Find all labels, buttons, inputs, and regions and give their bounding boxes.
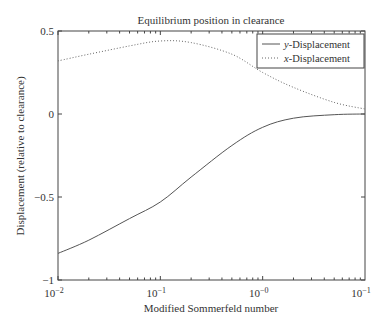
x-axis-label: Modified Sommerfeld number [144, 302, 279, 314]
y-tick-label: 0.5 [40, 25, 54, 37]
x-tick-label: 10−1 [351, 286, 371, 299]
legend-label-x-displacement: x-Displacement [283, 53, 350, 64]
x-tick-label: 10−1 [147, 286, 167, 299]
y-tick-label: 0 [49, 108, 55, 120]
y-displacement-line [58, 114, 365, 253]
y-tick-label: −0.5 [34, 191, 54, 203]
y-axis-label: Displacement (relative to clearance) [14, 76, 27, 235]
x-tick-label: 10−0 [249, 286, 269, 299]
x-tick-label: 10−2 [44, 286, 64, 299]
legend-label-y-displacement: y-Displacement [283, 39, 350, 50]
legend: y-Displacement x-Displacement [257, 34, 364, 68]
y-tick-label: −1 [42, 274, 54, 286]
chart-title: Equilibrium position in clearance [138, 14, 285, 26]
line-chart: Equilibrium position in clearance 0.50−0… [0, 0, 391, 326]
y-tick-labels: 0.50−0.5−1 [34, 25, 54, 286]
x-tick-labels: 10−210−110−010−1 [44, 286, 371, 299]
